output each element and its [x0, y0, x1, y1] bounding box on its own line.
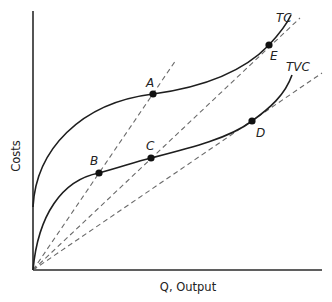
point-label-b: B [90, 154, 98, 168]
point-c [147, 154, 154, 161]
cost-curves-diagram: TC TVC ABCDE Q, Output Costs [0, 0, 332, 302]
tc-curve-label: TC [276, 11, 292, 25]
point-b [95, 169, 102, 176]
point-label-e: E [270, 49, 278, 63]
point-e [265, 41, 272, 48]
point-label-d: D [256, 126, 265, 140]
x-axis-label: Q, Output [160, 280, 217, 294]
rays-from-origin [33, 18, 322, 270]
point-a [149, 90, 156, 97]
y-axis-label: Costs [9, 140, 23, 172]
tvc-curve-label: TVC [286, 60, 311, 74]
point-label-c: C [146, 139, 155, 153]
point-label-a: A [145, 76, 154, 90]
tvc-curve [33, 75, 292, 270]
ray-through-C-E [33, 18, 300, 270]
tc-curve [33, 15, 291, 207]
ray-through-D [33, 73, 322, 270]
point-d [248, 117, 255, 124]
